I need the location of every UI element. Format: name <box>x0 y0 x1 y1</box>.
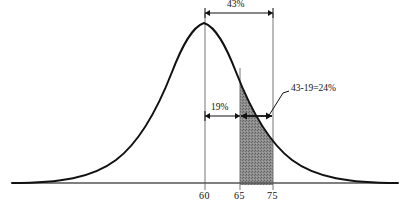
callout-leader-line <box>268 91 289 117</box>
label-19-percent: 19% <box>211 103 228 113</box>
tick-label-60: 60 <box>199 191 210 201</box>
shaded-area-65-to-75 <box>240 20 273 185</box>
distribution-plot <box>0 0 408 211</box>
measure-arrow-43 <box>205 8 273 18</box>
measure-arrow-19 <box>205 111 240 121</box>
label-callout-24-percent: 43-19=24% <box>291 84 336 94</box>
label-43-percent: 43% <box>227 0 244 10</box>
normal-distribution-figure: 43% 19% 43-19=24% 60 65 75 <box>0 0 408 211</box>
tick-label-75: 75 <box>267 191 278 201</box>
tick-label-65: 65 <box>234 191 245 201</box>
